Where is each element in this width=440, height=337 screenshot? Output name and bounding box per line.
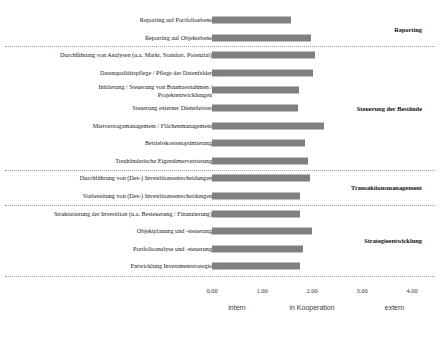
bar [212,69,313,76]
bar [212,122,324,129]
group-label: Reporting [394,25,422,32]
category-label: Vorbereitung von (Des-) Investitionsents… [7,192,212,199]
category-label: Betriebskostenoptimierung [7,139,212,146]
category-label: Strukturierung der Investition (u.a. Bes… [7,210,212,217]
category-label: Entwicklung Investmentstrategie [7,263,212,270]
category-label: Datenqualitätspflege / Pflege der Datenf… [7,69,212,76]
bar [212,245,303,252]
group-separator [5,205,435,206]
category-label: Reporting auf Portfolioebene [7,16,212,23]
group-label: Transaktionsmanagement [351,184,422,191]
group-separator [5,276,435,277]
x-axis-tick: 4.00 [406,287,417,294]
bar [212,34,311,41]
category-label: Durchführung von Analysen (u.a. Markt, S… [7,51,212,58]
bar [212,105,298,112]
bar [212,52,315,59]
bar [212,210,300,217]
category-label: Reporting auf Objektebene [7,34,212,41]
x-axis-tick: 3.00 [356,287,367,294]
bar-chart: Reporting auf PortfolioebeneReporting au… [0,0,440,337]
group-label: Steuerung der Bestände [357,105,422,112]
category-label: Mietvertragsmanagement / Flächenmanageme… [7,122,212,129]
bar [212,228,312,235]
group-separator [5,46,435,47]
bar [212,193,300,200]
category-label: Durchführung von (Des-) Investitionsents… [7,175,212,182]
zone-label: in Kooperation [289,304,334,311]
bar [212,263,300,270]
bar [212,157,308,164]
category-label: Treuhänderische Eigentümervertretung [7,157,212,164]
bar [212,17,291,24]
category-label: Objektplanung und -steuerung [7,227,212,234]
bar [212,140,305,147]
zone-label: extern [385,304,404,311]
x-axis-tick: 0.00 [206,287,217,294]
bar [212,175,310,182]
category-label: Initiierung / Steuerung von Baumassnahme… [7,83,212,98]
group-label: Strategieentwicklung [364,237,422,244]
bar [212,87,299,94]
category-label: Steuerung externer Dienstleister [7,104,212,111]
x-axis-tick: 2.00 [306,287,317,294]
zone-label: intern [228,304,246,311]
x-axis-tick: 1.00 [256,287,267,294]
group-separator [5,170,435,171]
category-label: Portfolioanalyse und -steuerung [7,245,212,252]
